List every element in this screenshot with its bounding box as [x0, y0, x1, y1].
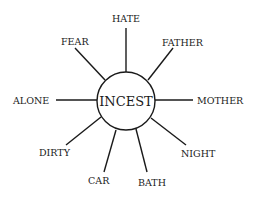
spoke-father [148, 48, 173, 80]
spoke-dirty [66, 117, 101, 145]
label-dirty: DIRTY [39, 147, 71, 158]
spoke-bath [136, 129, 147, 172]
center-label: INCEST [99, 94, 153, 109]
label-night: NIGHT [181, 148, 216, 159]
label-hate: HATE [112, 13, 140, 24]
spoke-car [104, 130, 116, 172]
label-bath: BATH [138, 177, 166, 188]
label-father: FATHER [162, 37, 204, 48]
spoke-fear [75, 48, 105, 80]
label-alone: ALONE [12, 95, 49, 106]
label-mother: MOTHER [197, 95, 244, 106]
word-association-diagram: INCEST HATE FATHER MOTHER NIGHT BATH CAR… [0, 0, 259, 200]
label-fear: FEAR [61, 36, 89, 47]
label-car: CAR [88, 175, 110, 186]
spoke-night [151, 118, 186, 145]
